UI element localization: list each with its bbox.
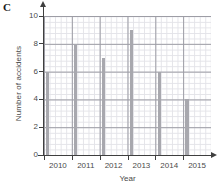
y-tick-label: 6 — [8, 68, 38, 76]
x-tick-label: 2015 — [180, 161, 214, 170]
bar-2011 — [74, 44, 77, 155]
y-tick-mark — [39, 16, 43, 17]
y-tick-label: 10 — [8, 12, 38, 20]
x-axis-line — [38, 155, 212, 156]
x-tick-mark — [155, 156, 156, 160]
y-tick-label: 2 — [8, 123, 38, 131]
x-axis-title: Year — [40, 174, 215, 183]
y-tick-label: 0 — [8, 151, 38, 159]
bar-chart-figure: C Number of accidents Year 0246810 20102… — [0, 0, 219, 189]
x-tick-mark — [100, 156, 101, 160]
x-tick-mark — [44, 156, 45, 160]
bar-2013 — [130, 30, 133, 155]
y-tick-mark — [39, 155, 43, 156]
bar-2015 — [185, 99, 188, 155]
x-tick-mark — [183, 156, 184, 160]
y-tick-mark — [39, 127, 43, 128]
y-tick-mark — [39, 71, 43, 72]
bar-2010 — [46, 72, 49, 155]
x-tick-mark — [128, 156, 129, 160]
x-axis-arrow-icon — [211, 152, 217, 158]
y-tick-mark — [39, 99, 43, 100]
y-tick-label: 4 — [8, 95, 38, 103]
y-tick-mark — [39, 43, 43, 44]
y-axis-arrow-icon — [40, 1, 46, 7]
bar-2014 — [158, 72, 161, 155]
x-tick-mark — [72, 156, 73, 160]
y-tick-label: 8 — [8, 40, 38, 48]
y-axis-line — [43, 6, 44, 156]
bar-2012 — [102, 58, 105, 155]
plot-area — [44, 16, 211, 155]
